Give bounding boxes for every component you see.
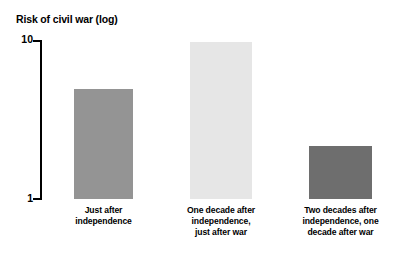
bar-category-label-line: One decade after	[175, 205, 267, 216]
bar-category-label-line: just after war	[175, 227, 267, 238]
bar-category-label: Two decades afterindependence, onedecade…	[292, 205, 389, 238]
bar-category-label: One decade afterindependence,just after …	[175, 205, 267, 238]
bar	[74, 89, 133, 199]
bar-category-label-line: independence, one	[292, 216, 389, 227]
bar-category-label-line: Just after	[54, 205, 153, 216]
bar-category-label: Just afterindependence	[54, 205, 153, 227]
chart-container: Risk of civil war (log) 10 1 Just afteri…	[0, 0, 406, 258]
bar	[190, 42, 252, 199]
bar-category-label-line: Two decades after	[292, 205, 389, 216]
bars-layer: Just afterindependenceOne decade afterin…	[0, 0, 406, 258]
bar-category-label-line: independence	[54, 216, 153, 227]
bar-category-label-line: decade after war	[292, 227, 389, 238]
bar	[309, 146, 372, 199]
bar-category-label-line: independence,	[175, 216, 267, 227]
